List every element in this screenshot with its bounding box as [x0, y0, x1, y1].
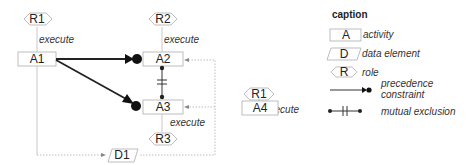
- svg-text:A4: A4: [253, 101, 268, 115]
- svg-text:A3: A3: [156, 100, 171, 114]
- legend-mutual-exclusion-label: mutual exclusion: [381, 106, 456, 117]
- workflow-diagram: R1 execute R2 execute A1 A2 A3: [0, 0, 467, 165]
- execute-label: execute: [39, 34, 74, 45]
- data-element-d1[interactable]: D1: [108, 148, 138, 162]
- execute-label: execute: [170, 117, 205, 128]
- mutual-exclusion-a2-a3: [157, 66, 167, 99]
- role-r2[interactable]: R2: [149, 12, 177, 26]
- a3-arrowhead-icon: [184, 105, 189, 109]
- legend-constraint-label: constraint: [381, 89, 426, 100]
- precedence-a1-a2: [56, 54, 142, 64]
- execute-label: execute: [164, 34, 199, 45]
- svg-text:R: R: [340, 65, 349, 79]
- caption-legend: caption A activity D data element R role…: [327, 9, 456, 117]
- activity-a3[interactable]: A3: [143, 100, 183, 114]
- svg-text:A2: A2: [156, 52, 171, 66]
- activity-a2[interactable]: A2: [143, 52, 183, 66]
- activity-a4[interactable]: A4: [242, 101, 278, 115]
- d1-arrowhead-icon: [101, 153, 106, 157]
- svg-text:A1: A1: [30, 52, 45, 66]
- svg-text:R1: R1: [29, 12, 45, 26]
- role-r1-top[interactable]: R1: [24, 12, 52, 26]
- svg-text:A: A: [342, 28, 350, 42]
- svg-text:D1: D1: [114, 148, 130, 162]
- svg-text:R2: R2: [155, 12, 171, 26]
- activity-a1[interactable]: A1: [18, 52, 56, 66]
- legend-activity-label: activity: [363, 29, 395, 40]
- a2-arrowhead-icon: [184, 58, 189, 62]
- caption-title: caption: [332, 9, 368, 20]
- role-r3[interactable]: R3: [149, 132, 177, 146]
- svg-text:R3: R3: [155, 132, 171, 146]
- precedence-a1-a3: [56, 60, 141, 111]
- legend-role-label: role: [362, 67, 379, 78]
- svg-text:D: D: [340, 47, 349, 61]
- legend-data-element-label: data element: [362, 48, 421, 59]
- legend-precedence-label: precedence: [380, 78, 434, 89]
